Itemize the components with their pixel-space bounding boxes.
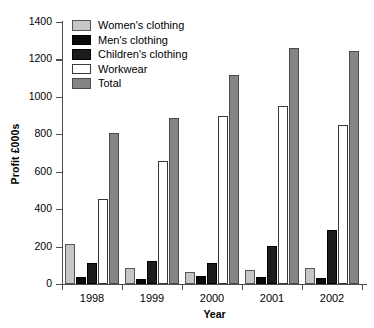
y-axis-tick: 1200 bbox=[56, 59, 62, 60]
legend-item: Workwear bbox=[72, 63, 188, 76]
x-axis-title: Year bbox=[62, 308, 367, 320]
bar bbox=[327, 230, 337, 284]
bar bbox=[158, 161, 168, 284]
bar bbox=[185, 272, 195, 284]
bar bbox=[169, 118, 179, 284]
bar bbox=[316, 278, 326, 284]
y-axis-tick: 1400 bbox=[56, 22, 62, 23]
y-axis-tick: 800 bbox=[56, 134, 62, 135]
bar bbox=[125, 268, 135, 284]
bar bbox=[338, 125, 348, 284]
legend-item-label: Workwear bbox=[98, 64, 147, 75]
x-axis-tick bbox=[362, 284, 363, 290]
legend-swatch-icon bbox=[72, 35, 91, 46]
bar bbox=[267, 246, 277, 284]
legend-item-label: Children's clothing bbox=[98, 49, 188, 60]
x-axis-tick-label: 1999 bbox=[140, 292, 164, 304]
x-axis-tick-label: 1998 bbox=[80, 292, 104, 304]
y-axis-tick-label: 1000 bbox=[29, 90, 52, 102]
y-axis-tick-label: 600 bbox=[34, 165, 52, 177]
x-axis-line bbox=[62, 284, 367, 285]
legend-item-label: Total bbox=[98, 78, 121, 89]
bar bbox=[245, 270, 255, 284]
y-axis-title: Profit £000s bbox=[9, 106, 21, 202]
bar bbox=[218, 116, 228, 284]
x-axis-tick bbox=[62, 284, 63, 290]
bar bbox=[109, 133, 119, 284]
legend-swatch-icon bbox=[72, 49, 91, 60]
bar bbox=[87, 263, 97, 284]
legend-item-label: Women's clothing bbox=[98, 20, 184, 31]
y-axis-tick: 600 bbox=[56, 172, 62, 173]
x-axis-tick-label: 2001 bbox=[260, 292, 284, 304]
bar bbox=[256, 277, 266, 284]
x-axis-tick bbox=[302, 284, 303, 290]
y-axis-tick-label: 0 bbox=[46, 277, 52, 289]
bar bbox=[196, 276, 206, 284]
bar bbox=[289, 48, 299, 284]
bar bbox=[65, 244, 75, 284]
legend-item-label: Men's clothing bbox=[98, 35, 168, 46]
y-axis-tick-label: 1200 bbox=[29, 52, 52, 64]
bar bbox=[207, 263, 217, 284]
x-axis-tick bbox=[242, 284, 243, 290]
bar bbox=[229, 75, 239, 284]
bar bbox=[98, 199, 108, 284]
legend-item: Total bbox=[72, 77, 188, 90]
bar bbox=[305, 268, 315, 284]
legend-swatch-icon bbox=[72, 64, 91, 75]
legend-item: Women's clothing bbox=[72, 19, 188, 32]
y-axis-tick-label: 800 bbox=[34, 127, 52, 139]
bar bbox=[136, 279, 146, 284]
y-axis-tick-label: 1400 bbox=[29, 15, 52, 27]
y-axis-tick: 1000 bbox=[56, 97, 62, 98]
x-axis-tick bbox=[182, 284, 183, 290]
bar bbox=[147, 261, 157, 284]
legend-swatch-icon bbox=[72, 78, 91, 89]
y-axis-tick-label: 200 bbox=[34, 240, 52, 252]
legend-swatch-icon bbox=[72, 20, 91, 31]
x-axis-tick bbox=[122, 284, 123, 290]
y-axis-tick-label: 400 bbox=[34, 202, 52, 214]
chart-legend: Women's clothingMen's clothingChildren's… bbox=[72, 19, 188, 90]
x-axis-tick-label: 2002 bbox=[320, 292, 344, 304]
bar-chart: Profit £000s 020040060080010001200140019… bbox=[0, 0, 374, 328]
bar bbox=[349, 51, 359, 284]
y-axis-tick: 200 bbox=[56, 247, 62, 248]
y-axis-tick: 400 bbox=[56, 209, 62, 210]
bar bbox=[278, 106, 288, 284]
x-axis-tick-label: 2000 bbox=[200, 292, 224, 304]
bar bbox=[76, 277, 86, 284]
legend-item: Men's clothing bbox=[72, 34, 188, 47]
legend-item: Children's clothing bbox=[72, 48, 188, 61]
